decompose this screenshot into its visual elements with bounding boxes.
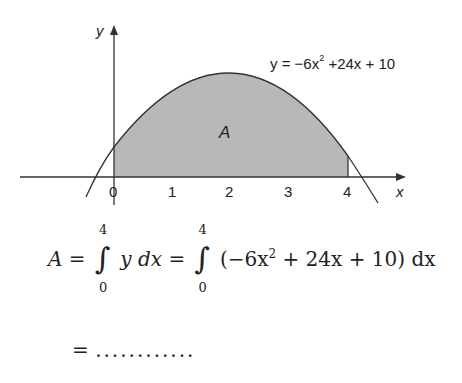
- region-label: A: [219, 123, 230, 143]
- integrand-2-exponent: 2: [268, 247, 276, 261]
- area-under-curve-figure: y x 0 1 2 3 4 A y = −6x2 +24x + 10: [0, 0, 462, 205]
- integral-sign-2: ∫ 4 0: [195, 240, 211, 280]
- integral-sign-1: ∫ 4 0: [95, 240, 111, 280]
- curve-equation-suffix: +24x + 10: [324, 55, 395, 72]
- integral-equation-line1: A = ∫ 4 0 y dx = ∫ 4 0 (−6x2 + 24x + 10)…: [48, 240, 435, 280]
- curve-equation-prefix: y = −6x: [270, 55, 319, 72]
- equals-sign-3: =: [72, 338, 89, 362]
- x-tick-2: 2: [225, 183, 233, 200]
- integral-icon: ∫: [95, 242, 111, 276]
- integral-icon: ∫: [195, 242, 211, 276]
- equals-sign-1: =: [69, 247, 86, 271]
- x-tick-4: 4: [343, 183, 351, 200]
- curve-equation-exponent: 2: [319, 53, 324, 63]
- y-axis-arrow-icon: [110, 25, 118, 35]
- integrand-1: y dx: [120, 247, 162, 271]
- lower-limit-1: 0: [99, 280, 107, 295]
- y-axis-label: y: [96, 22, 104, 39]
- shaded-region: [114, 73, 348, 177]
- integrand-2-part-b: + 24x + 10) dx: [276, 247, 435, 271]
- x-axis-arrow-icon: [396, 173, 406, 181]
- upper-limit-1: 4: [99, 222, 107, 237]
- x-axis-label: x: [396, 183, 404, 200]
- x-tick-3: 3: [284, 183, 292, 200]
- curve-equation-label: y = −6x2 +24x + 10: [270, 55, 395, 72]
- answer-blank: ............: [95, 338, 195, 362]
- x-tick-1: 1: [168, 183, 176, 200]
- integral-equation-line2: = ............: [72, 338, 195, 362]
- integrand-2-part-a: (−6x: [220, 247, 269, 271]
- area-symbol: A: [48, 247, 62, 271]
- x-tick-0: 0: [109, 183, 117, 200]
- lower-limit-2: 0: [199, 280, 207, 295]
- upper-limit-2: 4: [199, 222, 207, 237]
- graph-svg: [0, 0, 462, 205]
- equals-sign-2: =: [168, 247, 185, 271]
